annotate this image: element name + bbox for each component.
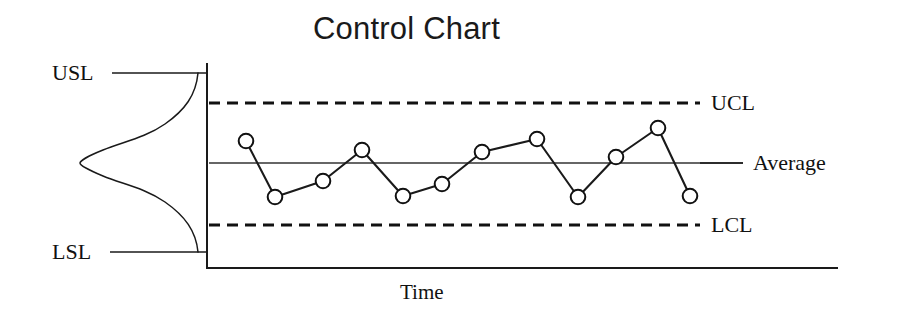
lsl-label: LSL <box>52 241 91 263</box>
data-point <box>268 190 283 205</box>
data-point <box>609 150 624 165</box>
data-point <box>396 189 411 204</box>
data-point <box>355 143 370 158</box>
average-label: Average <box>753 152 826 174</box>
data-point <box>475 145 490 160</box>
page-title: Control Chart <box>313 13 500 44</box>
data-point <box>683 189 698 204</box>
data-point <box>530 132 545 147</box>
data-point <box>239 134 254 149</box>
lcl-label: LCL <box>711 214 753 236</box>
ucl-label: UCL <box>711 92 755 114</box>
data-point <box>651 121 666 136</box>
distribution-curve <box>80 73 198 252</box>
data-point <box>316 174 331 189</box>
x-axis-label: Time <box>400 282 444 303</box>
data-point <box>435 177 450 192</box>
data-point <box>571 190 586 205</box>
control-chart-figure: Control Chart USL LSL UCL Average LCL Ti… <box>0 0 901 317</box>
usl-label: USL <box>52 62 94 84</box>
